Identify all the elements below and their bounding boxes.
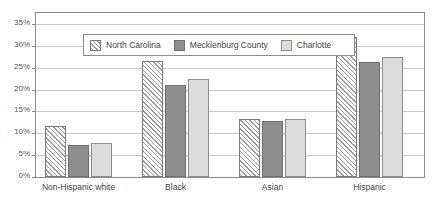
legend-item[interactable]: Mecklenburg County (174, 40, 268, 51)
y-tick-label: 0% (0, 172, 30, 180)
plot-area: North CarolinaMecklenburg CountyCharlott… (35, 12, 425, 178)
bar (359, 62, 380, 177)
bar (45, 126, 66, 177)
y-tick-label: 25% (0, 63, 30, 71)
dark-gray-swatch (174, 40, 185, 51)
y-tick-label: 5% (0, 150, 30, 158)
x-tick-label: Non-Hispanic white (42, 182, 115, 192)
x-tick-label: Black (165, 182, 186, 192)
y-tick-label: 10% (0, 128, 30, 136)
x-tick-label: Asian (262, 182, 283, 192)
y-tick-label: 15% (0, 106, 30, 114)
x-tick-label: Hispanic (353, 182, 386, 192)
x-axis: Non-Hispanic whiteBlackAsianHispanic (35, 180, 425, 200)
gridline-0% (36, 177, 424, 178)
bar (68, 145, 89, 177)
bar (382, 57, 403, 177)
y-axis: 0%5%10%15%20%25%30%35% (0, 12, 32, 178)
legend-item[interactable]: North Carolina (90, 40, 161, 51)
light-gray-swatch (281, 40, 292, 51)
bar (188, 79, 209, 177)
y-tick-label: 35% (0, 19, 30, 27)
bar (91, 143, 112, 177)
y-tick-mark (32, 177, 36, 178)
bar (165, 85, 186, 177)
bar (239, 119, 260, 177)
hatched-swatch (90, 40, 101, 51)
legend-item-label: North Carolina (106, 41, 161, 50)
legend-item-label: Mecklenburg County (190, 41, 268, 50)
bar-chart: 0%5%10%15%20%25%30%35% North CarolinaMec… (0, 0, 433, 205)
bar (336, 37, 357, 177)
y-tick-label: 30% (0, 41, 30, 49)
bar (262, 121, 283, 177)
chart-legend: North CarolinaMecklenburg CountyCharlott… (83, 34, 355, 56)
bar (285, 119, 306, 177)
bar (142, 61, 163, 177)
y-tick-label: 20% (0, 85, 30, 93)
legend-item-label: Charlotte (297, 41, 332, 50)
legend-item[interactable]: Charlotte (281, 40, 332, 51)
